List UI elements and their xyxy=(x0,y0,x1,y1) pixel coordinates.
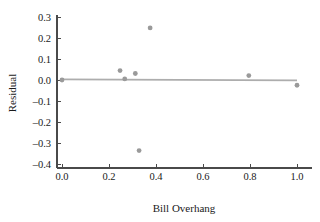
data-point xyxy=(295,83,300,88)
data-point xyxy=(148,26,153,31)
x-tick-label: 1.0 xyxy=(290,171,303,182)
data-point xyxy=(133,71,138,76)
y-tick-label: 0.1 xyxy=(38,54,51,65)
y-tick-label: 0.2 xyxy=(38,33,51,44)
y-tick-label: 0.3 xyxy=(38,12,51,23)
data-point xyxy=(60,78,65,83)
y-tick-label: –0.1 xyxy=(32,96,51,107)
x-tick-label: 0.2 xyxy=(102,171,115,182)
x-tick-label: 0.8 xyxy=(243,171,256,182)
y-tick-label: 0.0 xyxy=(38,75,51,86)
data-point xyxy=(137,148,142,153)
x-axis: 0.00.20.40.60.81.0 xyxy=(55,164,312,182)
x-tick-label: 0.4 xyxy=(149,171,163,182)
x-axis-title: Bill Overhang xyxy=(153,202,216,214)
zero-reference-line xyxy=(62,79,297,80)
y-tick-label: –0.4 xyxy=(32,159,52,170)
data-point xyxy=(118,68,123,73)
x-tick-label: 0.6 xyxy=(196,171,209,182)
plot-canvas: 0.30.20.10.0–0.1–0.2–0.3–0.4 0.00.20.40.… xyxy=(0,0,320,222)
x-tick-label: 0.0 xyxy=(55,171,68,182)
y-tick-label: –0.2 xyxy=(32,117,51,128)
zero-fit-line xyxy=(62,79,297,80)
residual-scatter-figure: 0.30.20.10.0–0.1–0.2–0.3–0.4 0.00.20.40.… xyxy=(0,0,320,222)
y-axis: 0.30.20.10.0–0.1–0.2–0.3–0.4 xyxy=(32,12,61,170)
data-point xyxy=(122,77,127,82)
y-tick-label: –0.3 xyxy=(32,138,51,149)
data-point xyxy=(246,73,251,78)
data-points xyxy=(60,26,300,153)
y-axis-title: Residual xyxy=(6,74,18,113)
